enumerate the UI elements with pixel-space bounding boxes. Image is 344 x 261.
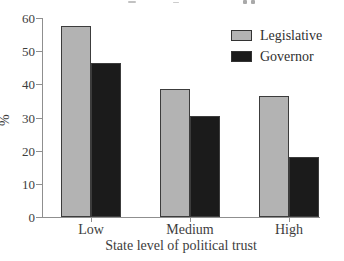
x-tick-label-low: Low (46, 222, 136, 238)
y-tick-label: 50 (0, 44, 35, 59)
bar-legislative-low (61, 26, 91, 217)
legend: LegislativeGovernor (231, 27, 322, 69)
x-tick-label-medium: Medium (145, 222, 235, 238)
y-tick-mark (36, 151, 42, 152)
y-tick-mark (36, 18, 42, 19)
political-trust-bar-chart: % 0102030405060LowMediumHigh Legislative… (0, 0, 344, 261)
legend-swatch-legislative (231, 30, 252, 41)
bar-legislative-medium (160, 89, 190, 217)
legend-swatch-governor (231, 51, 252, 62)
y-tick-label: 20 (0, 144, 35, 159)
bar-governor-medium (190, 116, 220, 217)
legend-label-governor: Governor (260, 48, 314, 65)
y-tick-mark (36, 118, 42, 119)
x-tick-label-high: High (244, 222, 334, 238)
y-axis-line (42, 18, 43, 218)
text-fragment (173, 2, 179, 3)
x-axis-line (42, 217, 320, 218)
y-tick-label: 0 (0, 210, 35, 225)
text-fragment (128, 1, 136, 3)
text-fragment (251, 0, 255, 4)
legend-label-legislative: Legislative (260, 27, 322, 44)
bar-governor-high (289, 157, 319, 217)
legend-item-legislative: Legislative (231, 27, 322, 44)
y-tick-mark (36, 84, 42, 85)
x-axis-title: State level of political trust (42, 238, 320, 254)
y-tick-label: 60 (0, 11, 35, 26)
legend-item-governor: Governor (231, 48, 322, 65)
bar-legislative-high (259, 96, 289, 217)
y-tick-label: 40 (0, 77, 35, 92)
y-tick-label: 30 (0, 111, 35, 126)
y-tick-mark (36, 217, 42, 218)
text-fragment (243, 0, 247, 4)
y-tick-mark (36, 184, 42, 185)
y-tick-mark (36, 51, 42, 52)
y-tick-label: 10 (0, 177, 35, 192)
bar-governor-low (91, 63, 121, 217)
